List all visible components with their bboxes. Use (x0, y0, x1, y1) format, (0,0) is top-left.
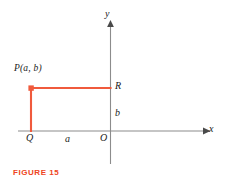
coordinate-plane-graphic (0, 0, 225, 188)
figure-container: P(a, b) Q a O R b x y FIGURE 15 (0, 0, 225, 188)
origin-label: O (100, 133, 107, 143)
x-axis-label: x (209, 124, 213, 134)
y-axis-label: y (105, 9, 109, 19)
figure-caption: FIGURE 15 (13, 168, 59, 177)
point-marker-P (28, 85, 33, 90)
point-label-R: R (115, 81, 121, 91)
y-axis-arrowhead (107, 20, 114, 27)
point-label-Q: Q (26, 133, 33, 143)
length-label-a: a (65, 134, 70, 144)
length-label-b: b (115, 108, 120, 118)
point-label-P: P(a, b) (14, 64, 42, 74)
segment-Q-P-R (31, 88, 111, 131)
